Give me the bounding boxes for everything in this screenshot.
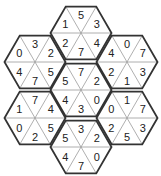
triangle-value-upper-right: 4 xyxy=(48,103,54,115)
triangle-value-lower-left: 0 xyxy=(16,122,22,134)
hexagon-puzzle: 1534720325744073125720341745200173525320… xyxy=(0,0,161,176)
triangle-value-top: 1 xyxy=(124,94,130,106)
triangle-value-top: 3 xyxy=(32,38,38,50)
triangle-value-upper-left: 5 xyxy=(62,75,68,87)
triangle-value-upper-right: 7 xyxy=(140,47,146,59)
triangle-value-upper-right: 3 xyxy=(94,18,100,30)
triangle-value-upper-left: 0 xyxy=(16,47,22,59)
triangle-value-lower-right: 0 xyxy=(94,94,100,106)
triangle-value-lower-left: 4 xyxy=(62,94,68,106)
triangle-value-lower-left: 2 xyxy=(62,37,68,49)
triangle-value-lower-left: 2 xyxy=(108,66,114,78)
triangle-value-lower-left: 2 xyxy=(108,122,114,134)
triangle-value-upper-left: 4 xyxy=(108,47,114,59)
triangle-value-lower-right: 3 xyxy=(140,122,146,134)
triangle-value-bottom: 7 xyxy=(78,46,84,58)
triangle-value-bottom: 2 xyxy=(32,131,38,143)
triangle-value-upper-left: 5 xyxy=(62,132,68,144)
triangle-value-top: 0 xyxy=(124,38,130,50)
triangle-value-lower-right: 3 xyxy=(140,66,146,78)
triangle-value-upper-right: 7 xyxy=(140,103,146,115)
triangle-value-lower-left: 4 xyxy=(62,151,68,163)
triangle-value-lower-left: 4 xyxy=(16,66,22,78)
triangle-value-bottom: 7 xyxy=(78,160,84,172)
triangle-value-upper-right: 2 xyxy=(94,132,100,144)
triangle-value-bottom: 3 xyxy=(78,103,84,115)
triangle-value-bottom: 5 xyxy=(124,131,130,143)
triangle-value-upper-right: 2 xyxy=(48,47,54,59)
triangle-value-upper-left: 1 xyxy=(62,18,68,30)
triangle-value-bottom: 7 xyxy=(32,75,38,87)
triangle-value-top: 5 xyxy=(78,9,84,21)
triangle-value-lower-right: 5 xyxy=(48,122,54,134)
triangle-value-lower-right: 0 xyxy=(94,151,100,163)
triangle-value-top: 7 xyxy=(32,94,38,106)
triangle-value-top: 7 xyxy=(78,66,84,78)
triangle-value-lower-right: 4 xyxy=(94,37,100,49)
triangle-value-top: 3 xyxy=(78,123,84,135)
triangle-value-bottom: 1 xyxy=(124,75,130,87)
triangle-value-upper-left: 0 xyxy=(108,103,114,115)
triangle-value-upper-left: 1 xyxy=(16,103,22,115)
triangle-value-upper-right: 2 xyxy=(94,75,100,87)
triangle-value-lower-right: 5 xyxy=(48,66,54,78)
